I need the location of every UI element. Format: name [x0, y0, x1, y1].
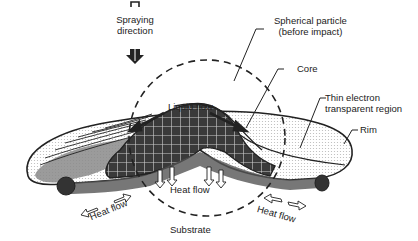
core-label: Core: [297, 63, 318, 74]
heat-flow-center-label: Heat flow: [170, 184, 210, 195]
label-line: Spraying: [116, 14, 154, 25]
spherical-particle-label: Spherical particle (before impact): [274, 15, 347, 37]
label-line: transparent region: [325, 103, 402, 114]
label-line: direction: [116, 25, 154, 36]
thin-region-label: Thin electron transparent region: [325, 92, 402, 114]
splat-diagram: [0, 0, 418, 241]
spraying-direction-label: Spraying direction: [116, 14, 154, 36]
rim-label: Rim: [360, 124, 377, 135]
label-line: Thin electron: [325, 92, 402, 103]
label-line: (before impact): [274, 26, 347, 37]
liquid-flow-label: Liquid flow: [168, 101, 213, 112]
substrate-label: Substrate: [170, 224, 211, 235]
label-line: Spherical particle: [274, 15, 347, 26]
